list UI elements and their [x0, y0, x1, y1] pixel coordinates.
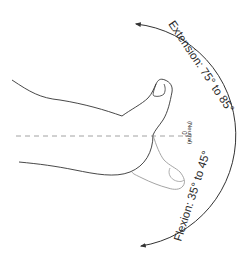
extension-label: Extension: 75° to 85° — [166, 18, 236, 114]
hand-upper-outline — [12, 80, 122, 116]
thumb-outline — [122, 79, 172, 135]
neutral-angle-label: 0° — [181, 131, 188, 138]
flexion-label: Flexion: 35° to 45° — [171, 149, 212, 242]
thumbnail-outline — [153, 84, 165, 96]
thumb-range-of-motion-diagram: Extension: 75° to 85° 0° (Neutral) Flexi… — [0, 0, 239, 257]
hand-lower-outline — [19, 135, 153, 175]
neutral-label: (Neutral) — [187, 121, 193, 144]
